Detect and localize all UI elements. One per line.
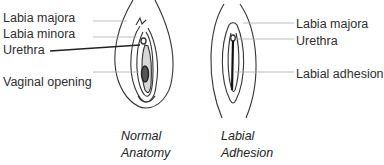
caption-labial-adhesion: Labial Adhesion: [221, 128, 273, 162]
caption-normal-anatomy: Normal Anatomy: [121, 128, 170, 162]
caption-normal-line2: Anatomy: [121, 145, 170, 162]
label-labial-adhesion: Labial adhesion: [296, 67, 384, 81]
caption-adhesion-line1: Labial: [221, 128, 273, 145]
label-labia-minora: Labia minora: [3, 27, 75, 41]
label-vaginal-opening: Vaginal opening: [3, 75, 92, 89]
adhesion-drawing: [211, 4, 256, 118]
caption-normal-line1: Normal: [121, 128, 170, 145]
label-urethra: Urethra: [3, 43, 45, 57]
normal-anatomy-drawing: [115, 0, 173, 108]
label-adhesion-labia-majora: Labia majora: [296, 17, 368, 31]
caption-adhesion-line2: Adhesion: [221, 145, 273, 162]
label-adhesion-urethra: Urethra: [296, 34, 338, 48]
leader-line-urethra: [50, 45, 140, 51]
label-labia-majora: Labia majora: [3, 11, 75, 25]
